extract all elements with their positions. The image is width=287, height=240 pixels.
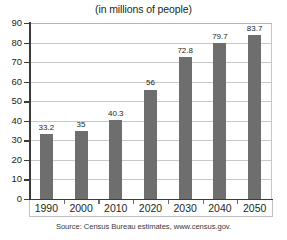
x-axis-tick bbox=[168, 200, 169, 204]
bar-value-label: 83.7 bbox=[235, 25, 275, 33]
y-axis-tick-label: 40 bbox=[0, 116, 22, 126]
y-axis-tick-label: 30 bbox=[0, 135, 22, 145]
x-axis-tick bbox=[237, 200, 238, 204]
y-axis-tick-label: 80 bbox=[0, 38, 22, 48]
y-axis-tick bbox=[24, 160, 29, 161]
x-axis-tick-label: 2050 bbox=[233, 203, 277, 214]
x-axis-tick bbox=[98, 200, 99, 204]
x-axis-tick bbox=[64, 200, 65, 204]
bar bbox=[144, 90, 157, 200]
bar-value-label: 79.7 bbox=[200, 33, 240, 41]
bar-chart-figure: (in millions of people) Source: Census B… bbox=[0, 0, 287, 240]
bar bbox=[40, 134, 53, 199]
y-axis-tick bbox=[24, 121, 29, 122]
y-axis-tick bbox=[24, 199, 29, 200]
gridline bbox=[29, 62, 272, 63]
y-axis-tick-label: 50 bbox=[0, 96, 22, 106]
y-axis-tick-label: 60 bbox=[0, 77, 22, 87]
y-axis-tick-label: 0 bbox=[0, 194, 22, 204]
y-axis-tick-label: 10 bbox=[0, 174, 22, 184]
bar bbox=[213, 43, 226, 199]
y-axis-tick bbox=[24, 62, 29, 63]
source-note: Source: Census Bureau estimates, www.cen… bbox=[0, 222, 287, 231]
bar-value-label: 40.3 bbox=[96, 110, 136, 118]
y-axis-line bbox=[29, 22, 31, 200]
bar bbox=[179, 57, 192, 199]
chart-title: (in millions of people) bbox=[0, 3, 287, 15]
bar-value-label: 35 bbox=[61, 121, 101, 129]
bar-value-label: 72.8 bbox=[165, 47, 205, 55]
bar bbox=[248, 35, 261, 199]
x-axis-tick bbox=[203, 200, 204, 204]
bar bbox=[109, 120, 122, 199]
y-axis-tick bbox=[24, 140, 29, 141]
plot-area bbox=[29, 23, 272, 199]
y-axis-tick bbox=[24, 82, 29, 83]
y-axis-tick bbox=[24, 179, 29, 180]
y-axis-tick-label: 90 bbox=[0, 18, 22, 28]
bar bbox=[75, 131, 88, 199]
y-axis-tick bbox=[24, 101, 29, 102]
gridline bbox=[29, 23, 272, 24]
y-axis-tick-label: 20 bbox=[0, 155, 22, 165]
grid-right-edge bbox=[271, 23, 272, 199]
gridline bbox=[29, 43, 272, 44]
y-axis-tick-label: 70 bbox=[0, 57, 22, 67]
bar-value-label: 56 bbox=[131, 79, 171, 87]
x-axis-tick bbox=[133, 200, 134, 204]
y-axis-tick bbox=[24, 43, 29, 44]
y-axis-tick bbox=[24, 23, 29, 24]
